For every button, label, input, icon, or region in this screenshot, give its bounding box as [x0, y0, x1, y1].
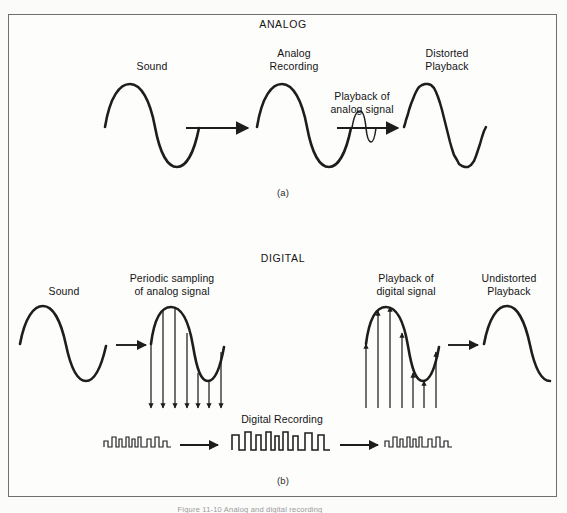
panel-id-b: (b)	[258, 475, 308, 488]
digital-sound-waveform	[20, 306, 106, 381]
label-distorted-playback: Distorted Playback	[405, 47, 489, 72]
figure-root: ANALOG Sound Analog Recording Playback o…	[0, 0, 567, 513]
pulse-train-readout-right	[385, 437, 452, 447]
label-digital-recording: Digital Recording	[224, 413, 340, 426]
label-periodic-sampling: Periodic sampling of analog signal	[112, 272, 232, 297]
analog-sound-waveform	[105, 84, 199, 167]
figure-caption: Figure 11-10 Analog and digital recordin…	[120, 505, 380, 513]
section-title-digital: DIGITAL	[217, 252, 349, 265]
label-playback-of-digital-signal: Playback of digital signal	[363, 272, 449, 297]
label-playback-of-analog-signal: Playback of analog signal	[317, 90, 407, 115]
analog-arrow-playback	[337, 111, 398, 142]
pulse-train-sampled-left	[104, 437, 171, 447]
digital-undistorted-playback-waveform	[484, 306, 550, 381]
analog-distorted-playback-waveform	[404, 84, 486, 167]
label-digital-sound: Sound	[30, 285, 98, 298]
pulse-train-digital-recording	[232, 432, 330, 450]
label-undistorted-playback: Undistorted Playback	[466, 272, 552, 297]
label-analog-sound: Sound	[118, 60, 186, 73]
section-title-analog: ANALOG	[217, 18, 349, 31]
label-analog-recording: Analog Recording	[258, 47, 330, 72]
panel-id-a: (a)	[258, 187, 308, 200]
